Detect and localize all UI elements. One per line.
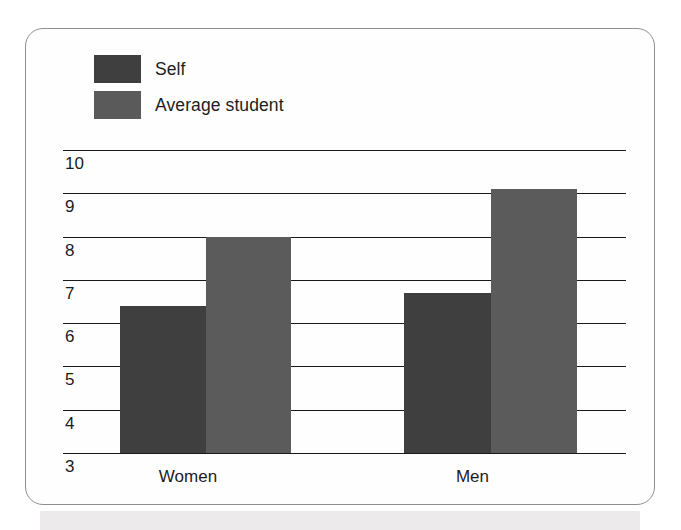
legend-label-average-student: Average student — [155, 95, 284, 116]
bar-men-self — [404, 293, 491, 453]
gridline-10 — [63, 150, 626, 151]
bar-women-self — [120, 306, 206, 453]
x-axis-label-women: Women — [145, 467, 231, 487]
scanned-page: Self Average student 10 9 8 7 6 5 — [0, 0, 681, 530]
legend-item-self: Self — [94, 51, 514, 87]
gridline-3 — [63, 453, 626, 454]
bar-men-average-student — [491, 189, 577, 453]
page-scan-band — [40, 511, 640, 530]
bar-women-average-student — [206, 237, 291, 453]
y-axis-label-7: 7 — [65, 285, 74, 302]
chart-legend: Self Average student — [94, 51, 514, 123]
self-color-swatch — [94, 55, 141, 83]
y-axis-label-3: 3 — [65, 458, 74, 475]
y-axis-label-6: 6 — [65, 328, 74, 345]
chart-card: Self Average student 10 9 8 7 6 5 — [25, 28, 655, 505]
y-axis-label-8: 8 — [65, 242, 74, 259]
x-axis-label-men: Men — [429, 467, 516, 487]
legend-item-average-student: Average student — [94, 87, 514, 123]
y-axis-label-9: 9 — [65, 198, 74, 215]
legend-label-self: Self — [155, 59, 186, 80]
y-axis-label-10: 10 — [65, 155, 84, 172]
plot-area: 10 9 8 7 6 5 4 3 — [63, 150, 626, 453]
average-student-color-swatch — [94, 91, 141, 119]
y-axis-label-4: 4 — [65, 415, 74, 432]
y-axis-label-5: 5 — [65, 371, 74, 388]
